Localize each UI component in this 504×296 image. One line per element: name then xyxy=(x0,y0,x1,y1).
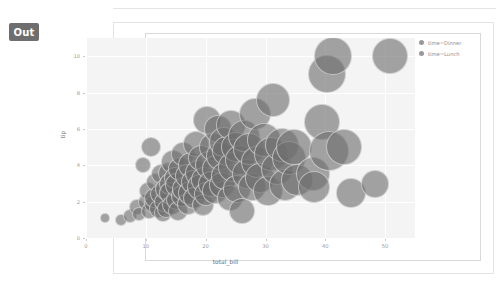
scatter-point xyxy=(256,83,290,117)
legend-label: time=Lunch xyxy=(428,51,460,57)
notebook-output-cell: Out 0246810 01020304050 total_bill tip t… xyxy=(0,0,504,296)
y-tick-mark xyxy=(83,93,85,94)
scatter-point xyxy=(229,198,255,224)
scatter-point xyxy=(361,170,389,198)
scatter-point xyxy=(135,157,151,173)
legend: time=Dinner time=Lunch xyxy=(419,38,491,60)
x-tick-label: 30 xyxy=(256,243,276,249)
legend-marker-icon xyxy=(419,40,424,45)
scatter-point xyxy=(141,137,161,157)
x-tick-label: 0 xyxy=(76,243,96,249)
y-tick-label: 0 xyxy=(58,235,80,241)
y-tick-mark xyxy=(83,56,85,57)
x-tick-label: 20 xyxy=(196,243,216,249)
y-tick-mark xyxy=(83,129,85,130)
legend-label: time=Dinner xyxy=(428,40,461,46)
legend-item-lunch[interactable]: time=Lunch xyxy=(419,49,491,58)
y-tick-mark xyxy=(83,238,85,239)
y-tick-mark xyxy=(83,165,85,166)
x-tick-mark xyxy=(385,239,386,241)
y-tick-label: 8 xyxy=(58,90,80,96)
scatter-points xyxy=(86,38,415,238)
scatter-point xyxy=(372,38,408,74)
y-tick-label: 2 xyxy=(58,199,80,205)
plot-panel xyxy=(86,38,415,238)
output-badge: Out xyxy=(9,23,39,41)
x-tick-label: 40 xyxy=(315,243,335,249)
scatter-point xyxy=(314,38,352,75)
legend-item-dinner[interactable]: time=Dinner xyxy=(419,38,491,47)
x-tick-mark xyxy=(325,239,326,241)
x-axis-label: total_bill xyxy=(0,258,504,265)
x-tick-label: 10 xyxy=(136,243,156,249)
scatter-point xyxy=(298,171,330,203)
x-tick-mark xyxy=(146,239,147,241)
legend-marker-icon xyxy=(419,51,424,56)
x-tick-mark xyxy=(266,239,267,241)
y-tick-mark xyxy=(83,202,85,203)
y-axis-label: tip xyxy=(59,127,66,143)
y-tick-label: 10 xyxy=(58,53,80,59)
x-tick-mark xyxy=(86,239,87,241)
scatter-point xyxy=(100,213,110,223)
cell-divider xyxy=(113,8,496,9)
x-tick-label: 50 xyxy=(375,243,395,249)
scatter-point xyxy=(326,129,362,165)
x-tick-mark xyxy=(206,239,207,241)
y-tick-label: 4 xyxy=(58,162,80,168)
